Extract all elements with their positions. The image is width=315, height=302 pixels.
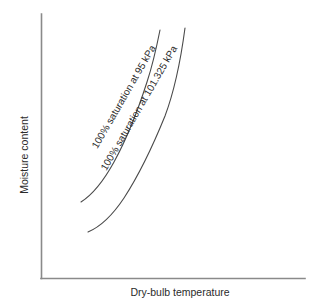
psychrometric-saturation-chart: Moisture content Dry-bulb temperature 10… <box>0 0 315 302</box>
y-axis-label: Moisture content <box>18 116 30 194</box>
x-axis-label: Dry-bulb temperature <box>130 286 229 298</box>
